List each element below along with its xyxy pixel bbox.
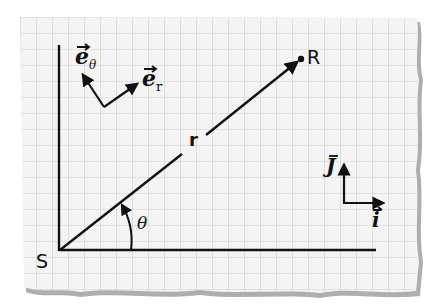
graph-paper-canvas xyxy=(0,0,444,308)
label-j: J xyxy=(326,156,335,176)
point-r xyxy=(298,56,304,62)
label-e-theta: eθ xyxy=(75,45,96,71)
label-angle-theta: θ xyxy=(137,215,147,232)
label-s-origin: S xyxy=(36,252,48,271)
e-r-base: e xyxy=(142,65,156,91)
label-i: i xyxy=(372,210,380,230)
diagram: R S r θ eθ er J i xyxy=(0,0,444,308)
e-theta-base: e xyxy=(75,43,89,69)
label-r-point: R xyxy=(307,48,320,67)
e-theta-sub: θ xyxy=(89,58,96,72)
e-r-sub: r xyxy=(156,79,162,94)
label-radius: r xyxy=(189,131,198,149)
label-e-r: er xyxy=(142,67,162,93)
